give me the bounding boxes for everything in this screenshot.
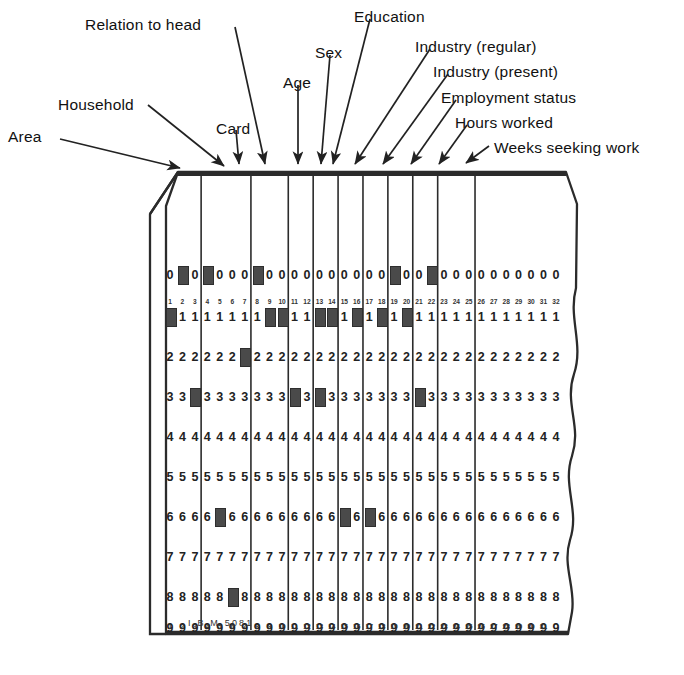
punch-digit: 3 (351, 390, 363, 404)
punch-digit: 3 (450, 390, 462, 404)
column-number: 32 (549, 298, 563, 306)
punch-digit: 4 (413, 430, 425, 444)
callout-arrow-icon (148, 105, 224, 166)
punch-digit: 4 (450, 430, 462, 444)
punch-digit: 8 (189, 590, 201, 604)
punch-digit: 7 (264, 550, 276, 564)
column-number: 31 (537, 623, 551, 631)
callout-arrow-icon (466, 146, 489, 163)
punch-digit: 7 (463, 550, 475, 564)
punch-digit: 3 (264, 390, 276, 404)
punch-digit: 4 (538, 430, 550, 444)
punch-digit: 0 (164, 268, 176, 282)
punch-digit: 3 (550, 390, 562, 404)
punch-digit: 5 (264, 470, 276, 484)
punch-digit: 2 (264, 350, 276, 364)
callout-label-hours-worked: Hours worked (455, 114, 553, 132)
punch-digit: 3 (338, 390, 350, 404)
punch-digit: 6 (550, 510, 562, 524)
punch-digit: 2 (301, 350, 313, 364)
punch-digit: 5 (538, 470, 550, 484)
punch-digit: 4 (351, 430, 363, 444)
punch-digit: 3 (538, 390, 550, 404)
punch-digit: 4 (264, 430, 276, 444)
punch-digit: 0 (276, 268, 288, 282)
punch-digit: 0 (363, 268, 375, 282)
punch-digit: 0 (326, 268, 338, 282)
punch-digit: 2 (538, 350, 550, 364)
punch-digit: 4 (550, 430, 562, 444)
punch-digit: 4 (214, 430, 226, 444)
punch-digit: 5 (438, 470, 450, 484)
punch-digit: 7 (388, 550, 400, 564)
punch-digit: 0 (413, 268, 425, 282)
punch-digit: 5 (425, 470, 437, 484)
punch-digit: 2 (488, 350, 500, 364)
punch-hole (365, 508, 376, 527)
punch-digit: 0 (438, 268, 450, 282)
punch-digit: 1 (538, 310, 550, 324)
punch-digit: 7 (176, 550, 188, 564)
punch-digit: 5 (475, 470, 487, 484)
punch-digit: 8 (513, 590, 525, 604)
punch-digit: 0 (264, 268, 276, 282)
punch-digit: 5 (401, 470, 413, 484)
punch-digit: 6 (425, 510, 437, 524)
punch-digit: 8 (301, 590, 313, 604)
punch-digit: 5 (289, 470, 301, 484)
punch-digit: 5 (488, 470, 500, 484)
punch-hole (240, 348, 251, 367)
punch-digit: 8 (500, 590, 512, 604)
punch-hole (228, 588, 239, 607)
punch-hole (253, 266, 264, 285)
punch-digit: 4 (488, 430, 500, 444)
punch-digit: 2 (413, 350, 425, 364)
callout-arrow-icon (333, 19, 370, 164)
punch-digit: 2 (189, 350, 201, 364)
punch-digit: 3 (363, 390, 375, 404)
punch-digit: 7 (239, 550, 251, 564)
punch-digit: 3 (376, 390, 388, 404)
callout-arrow-icon (321, 55, 330, 164)
punch-digit: 1 (488, 310, 500, 324)
punch-digit: 6 (289, 510, 301, 524)
punch-digit: 6 (164, 510, 176, 524)
punch-digit: 2 (438, 350, 450, 364)
punch-digit: 0 (376, 268, 388, 282)
punch-hole (315, 308, 326, 327)
punch-digit: 1 (301, 310, 313, 324)
callout-label-relation-to-head: Relation to head (85, 16, 201, 34)
punch-digit: 6 (376, 510, 388, 524)
punch-digit: 8 (525, 590, 537, 604)
punch-hole (203, 266, 214, 285)
punch-hole (340, 508, 351, 527)
punch-digit: 2 (550, 350, 562, 364)
punch-digit: 1 (176, 310, 188, 324)
punch-digit: 4 (326, 430, 338, 444)
punch-digit: 6 (450, 510, 462, 524)
punch-digit: 2 (251, 350, 263, 364)
callout-label-card: Card (216, 120, 250, 138)
punch-digit: 7 (376, 550, 388, 564)
punch-hole (190, 388, 201, 407)
punch-digit: 4 (301, 430, 313, 444)
punch-hole (265, 308, 276, 327)
punch-digit: 5 (338, 470, 350, 484)
punch-digit: 5 (326, 470, 338, 484)
punch-digit: 6 (500, 510, 512, 524)
punch-digit: 6 (264, 510, 276, 524)
punch-digit: 2 (176, 350, 188, 364)
punch-digit: 7 (226, 550, 238, 564)
callout-label-sex: Sex (315, 44, 342, 62)
punch-digit: 4 (500, 430, 512, 444)
callout-label-weeks-seeking-work: Weeks seeking work (494, 139, 639, 157)
punch-digit: 2 (326, 350, 338, 364)
punch-digit: 3 (164, 390, 176, 404)
punch-digit: 0 (313, 268, 325, 282)
punch-digit: 0 (463, 268, 475, 282)
punch-digit: 7 (363, 550, 375, 564)
punch-digit: 4 (388, 430, 400, 444)
punch-hole (215, 508, 226, 527)
punch-digit: 7 (326, 550, 338, 564)
punch-digit: 1 (475, 310, 487, 324)
